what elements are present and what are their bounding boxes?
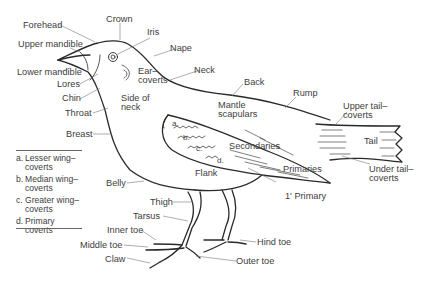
label-first-primary: 1' Primary <box>285 191 326 201</box>
wing-marker-c: c. <box>196 144 202 154</box>
label-upper-mandible: Upper mandible <box>18 39 83 49</box>
legend-bottom-rule <box>16 228 82 229</box>
label-thigh: Thigh <box>150 197 173 207</box>
label-mantle-scapulars: Mantle scapulars <box>218 101 257 119</box>
label-rump: Rump <box>293 88 318 98</box>
label-back: Back <box>244 77 264 87</box>
legend-key: c. <box>16 196 25 214</box>
label-tail: Tail <box>364 136 378 146</box>
label-tarsus: Tarsus <box>133 211 160 221</box>
label-upper-tail-coverts: Upper tail– coverts <box>343 102 387 120</box>
legend-item-primary: d. Primary coverts <box>16 217 82 235</box>
label-belly: Belly <box>106 178 126 188</box>
wing-coverts-legend: a. Lesser wing– coverts b. Median wing– … <box>16 154 82 238</box>
label-breast: Breast <box>66 129 93 139</box>
label-claw: Claw <box>105 254 125 264</box>
label-inner-toe: Inner toe <box>107 225 143 235</box>
wing-marker-a: a. <box>172 119 179 129</box>
label-lores: Lores <box>57 79 80 89</box>
legend-text: Primary coverts <box>25 217 55 235</box>
legend-text: Lesser wing– coverts <box>25 154 76 172</box>
label-primaries: Primaries <box>283 164 322 174</box>
label-iris: Iris <box>147 27 159 37</box>
legend-key: a. <box>16 154 25 172</box>
legend-item-median: b. Median wing– coverts <box>16 175 82 193</box>
wing-marker-d: d. <box>217 156 224 166</box>
label-outer-toe: Outer toe <box>236 256 274 266</box>
legend-item-lesser: a. Lesser wing– coverts <box>16 154 82 172</box>
legend-key: d. <box>16 217 25 235</box>
label-crown: Crown <box>106 14 133 24</box>
label-neck: Neck <box>194 65 215 75</box>
label-throat: Throat <box>65 108 92 118</box>
legend-item-greater: c. Greater wing– coverts <box>16 196 82 214</box>
label-side-of-neck: Side of neck <box>121 94 150 112</box>
label-forehead: Forehead <box>23 20 62 30</box>
legend-key: b. <box>16 175 25 193</box>
label-ear-coverts: Ear– coverts <box>138 67 168 85</box>
label-lower-mandible: Lower mandible <box>17 67 82 77</box>
label-middle-toe: Middle toe <box>80 240 122 250</box>
legend-top-rule <box>16 150 82 151</box>
label-under-tail-coverts: Under tail– coverts <box>369 165 413 183</box>
label-nape: Nape <box>170 43 192 53</box>
label-flank: Flank <box>195 168 217 178</box>
wing-marker-b: b. <box>183 133 190 143</box>
legend-text: Greater wing– coverts <box>25 196 79 214</box>
label-hind-toe: Hind toe <box>257 237 291 247</box>
label-secondaries: Secondaries <box>229 141 280 151</box>
legend-text: Median wing– coverts <box>25 175 78 193</box>
label-chin: Chin <box>62 93 81 103</box>
